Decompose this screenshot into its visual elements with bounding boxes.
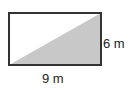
- shaded-triangle: [9, 13, 101, 65]
- width-label: 9 m: [42, 72, 64, 85]
- height-label: 6 m: [103, 37, 125, 50]
